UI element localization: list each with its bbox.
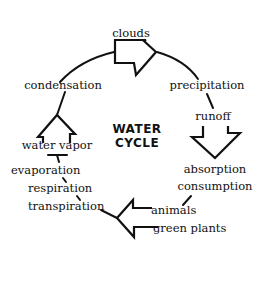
title-cycle: CYCLE <box>115 136 159 150</box>
arc-clouds-to-precipitation <box>157 52 198 79</box>
label-condensation: condensation <box>24 78 102 92</box>
label-water-vapor: water vapor <box>22 138 93 152</box>
label-transpiration: transpiration <box>28 199 105 213</box>
arrow-right-clouds <box>115 40 156 75</box>
line-water-vapor-to-condensation <box>57 92 65 115</box>
label-precipitation: precipitation <box>170 78 246 92</box>
label-animals: animals <box>151 203 196 217</box>
label-green-plants: green plants <box>153 221 226 235</box>
label-respiration: respiration <box>28 181 93 195</box>
line-precipitation-to-runoff <box>207 94 213 108</box>
label-evaporation: evaporation <box>11 163 81 177</box>
label-clouds: clouds <box>112 26 150 40</box>
water-cycle-diagram: clouds precipitation runoff absorption c… <box>0 0 265 290</box>
label-consumption: consumption <box>178 179 254 193</box>
arrow-down-runoff <box>192 126 240 158</box>
label-absorption: absorption <box>184 162 247 176</box>
label-runoff: runoff <box>195 109 231 123</box>
bracket-water-vapor <box>48 155 67 162</box>
title-water: WATER <box>112 122 161 136</box>
